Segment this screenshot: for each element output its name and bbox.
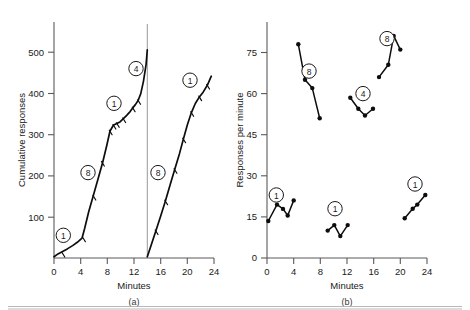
annotation-label: 1 [61,231,66,241]
panel-a-cumulative-curve-session-1 [54,50,147,257]
annotation-label: 8 [307,67,312,77]
data-point [423,193,427,197]
panel-a-y-axis-title: Cumulative responses [16,93,27,187]
annotation-label: 8 [385,34,390,44]
data-point [292,198,296,202]
panel-b-y-label-30: 30 [246,170,257,181]
data-point [326,228,330,232]
panel-b-y-label-75: 75 [246,47,257,58]
panel-a-annotation-8b: 8 [151,165,165,179]
data-point [398,47,402,51]
panel-b-x-axis-title: Minutes [330,280,364,291]
annotation-label: 1 [413,180,418,190]
data-point [363,113,367,117]
panel-b-segment-ratio-8-first [296,42,322,120]
panel-b-segment-ratio-1-third [403,193,428,221]
data-point [332,223,336,227]
data-point [296,42,300,46]
panel-a-y-label-200: 200 [28,170,44,181]
panel-a-x-label-12: 12 [129,266,140,277]
data-point [415,202,419,206]
annotation-label: 1 [188,76,193,86]
data-point [338,234,342,238]
panel-a-x-ticks [54,258,214,264]
panel-b-y-ticks [261,53,267,259]
two-panel-figure: 500 400 300 200 100 0 4 8 12 16 20 24 [0,0,470,310]
panel-b-y-label-15: 15 [246,211,257,222]
panel-b-caption: (b) [342,297,353,307]
data-point [377,75,381,79]
data-point [411,207,415,211]
data-point [318,116,322,120]
annotation-label: 8 [156,168,161,178]
panel-b-annotation-4: 4 [356,86,370,100]
panel-a-y-label-500: 500 [28,47,44,58]
panel-b-annotation-1a: 1 [269,188,283,202]
data-point [281,207,285,211]
panel-a-annotation-1c: 1 [183,73,197,87]
panel-b-y-label-45: 45 [246,129,257,140]
panel-b-x-label-12: 12 [342,266,353,277]
data-point [348,96,352,100]
panel-a-y-ticks [48,52,54,217]
panel-b-x-label-8: 8 [318,266,323,277]
panel-a-x-label-20: 20 [182,266,193,277]
panel-a-annotation-4: 4 [129,61,143,75]
panel-a-y-label-300: 300 [28,129,44,140]
panel-a-x-axis-title: Minutes [117,280,151,291]
data-point [310,86,314,90]
data-point [266,219,270,223]
panel-a-annotation-1a: 1 [56,228,70,242]
panel-b-y-label-60: 60 [246,88,257,99]
panel-a-pips-session-1 [62,100,141,257]
panel-a: 500 400 300 200 100 0 4 8 12 16 20 24 [16,22,219,307]
panel-b-x-label-4: 4 [291,266,296,277]
panel-a-x-label-0: 0 [51,266,56,277]
data-point [275,202,279,206]
panel-b-x-label-16: 16 [368,266,379,277]
panel-a-x-label-4: 4 [78,266,83,277]
panel-a-x-label-16: 16 [155,266,166,277]
annotation-label: 1 [333,204,338,214]
annotation-label: 1 [112,99,117,109]
annotation-label: 1 [274,191,279,201]
panel-b-x-ticks [267,258,427,264]
panel-a-pips-session-2 [155,85,209,235]
panel-b-annotation-1c: 1 [408,177,422,191]
annotation-label: 4 [134,64,139,74]
panel-a-caption: (a) [129,297,140,307]
panel-b-x-label-20: 20 [395,266,406,277]
data-point [346,223,350,227]
figure-container: 500 400 300 200 100 0 4 8 12 16 20 24 [0,0,470,310]
data-point [356,107,360,111]
panel-b-y-axis-title: Responses per minute [234,92,245,187]
panel-b-x-label-0: 0 [264,266,269,277]
panel-a-annotation-8a: 8 [81,165,95,179]
data-point [371,107,375,111]
panel-b-segment-ratio-1-first [266,198,296,223]
panel-a-annotation-1b: 1 [107,96,121,110]
annotation-label: 8 [86,168,91,178]
panel-b-annotation-8b: 8 [380,31,394,45]
annotation-label: 4 [361,89,366,99]
data-point [386,63,390,67]
panel-b-annotation-1b: 1 [328,202,342,216]
panel-b-segment-ratio-1-second [326,223,350,238]
data-point [286,213,290,217]
panel-b-annotation-8a: 8 [302,64,316,78]
panel-a-x-label-8: 8 [105,266,110,277]
data-point [403,216,407,220]
panel-a-y-label-100: 100 [28,212,44,223]
panel-b-x-label-24: 24 [422,266,433,277]
panel-b: 0 15 30 45 60 75 0 4 8 12 16 20 24 [234,22,432,307]
panel-a-y-label-400: 400 [28,88,44,99]
panel-b-y-label-0: 0 [252,252,257,263]
panel-a-x-label-24: 24 [209,266,220,277]
